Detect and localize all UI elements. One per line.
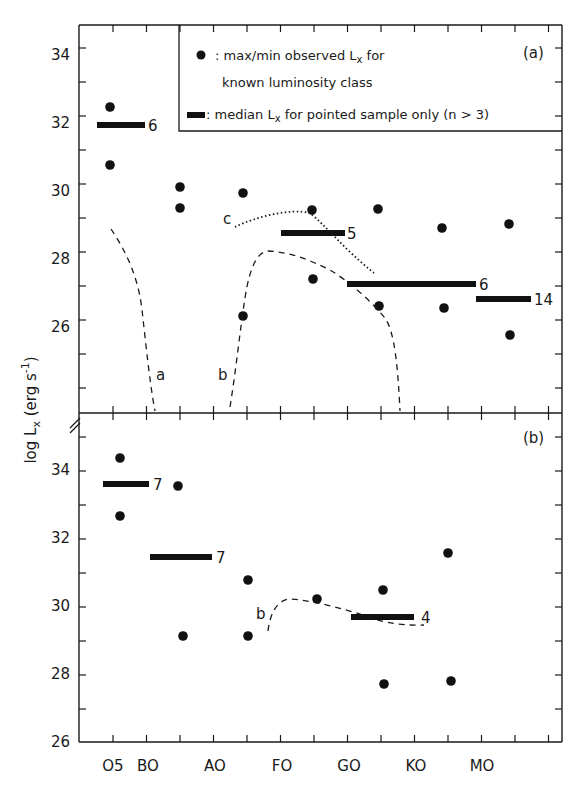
yticks-panel-a: 34 32 30 28 26 — [51, 46, 70, 336]
legend-bar-icon — [187, 112, 205, 118]
panel-a-counts: 6 5 6 14 — [148, 117, 553, 309]
xtick-label: GO — [337, 757, 360, 775]
xtick-label: AO — [204, 757, 226, 775]
panel-a-label: (a) — [523, 44, 544, 62]
svg-text:c: c — [223, 210, 231, 228]
ytick-label: 32 — [51, 529, 70, 547]
svg-text:6: 6 — [479, 276, 489, 294]
panel-a: 6 5 6 14 a b c — [97, 102, 553, 411]
xtick-label: O5 — [102, 757, 123, 775]
ytick-label: 28 — [51, 665, 70, 683]
ytick-label: 34 — [51, 46, 70, 64]
legend: : max/min observed Lx for known luminosi… — [179, 25, 562, 131]
ytick-label: 26 — [51, 733, 70, 751]
xtick-label: MO — [470, 757, 495, 775]
svg-text:7: 7 — [153, 476, 163, 494]
svg-text:4: 4 — [421, 609, 431, 627]
panel-a-curve-labels: a b c — [156, 210, 231, 384]
ytick-label: 34 — [51, 461, 70, 479]
curve-a — [111, 229, 155, 411]
figure: 34 32 30 28 26 34 32 30 28 26 log Lx (er… — [0, 0, 584, 788]
panel-b-points — [115, 453, 456, 689]
ytick-label: 32 — [51, 114, 70, 132]
xtick-label: BO — [137, 757, 159, 775]
ytick-label: 30 — [51, 182, 70, 200]
legend-dot-text-2: known luminosity class — [222, 75, 373, 90]
panel-a-points — [105, 102, 515, 340]
svg-text:7: 7 — [216, 549, 226, 567]
legend-bar-text: : median Lx for pointed sample only (n >… — [206, 107, 489, 124]
svg-text:a: a — [156, 366, 165, 384]
panel-b-label: (b) — [523, 429, 544, 447]
xtick-label: FO — [272, 757, 292, 775]
yticks-panel-b: 34 32 30 28 26 — [51, 461, 70, 751]
ytick-label: 30 — [51, 597, 70, 615]
panel-b-medians — [103, 481, 414, 620]
xtick-label: KO — [406, 757, 427, 775]
panel-b: 7 7 4 b — [103, 453, 456, 689]
svg-text:14: 14 — [534, 291, 553, 309]
curve-b-label: b — [256, 605, 266, 623]
ytick-label: 28 — [51, 250, 70, 268]
svg-text:6: 6 — [148, 117, 158, 135]
ytick-label: 26 — [51, 318, 70, 336]
svg-text:5: 5 — [347, 225, 357, 243]
legend-dot-icon — [197, 51, 206, 60]
x-axis-labels: O5 BO AO FO GO KO MO — [102, 757, 494, 775]
panel-b-counts: 7 7 4 — [153, 476, 431, 627]
legend-dot-text: : max/min observed Lx for — [215, 48, 385, 65]
svg-text:log Lx (erg s-1): log Lx (erg s-1) — [19, 356, 43, 463]
y-axis-label: log Lx (erg s-1) — [19, 356, 43, 463]
svg-text:b: b — [218, 366, 228, 384]
